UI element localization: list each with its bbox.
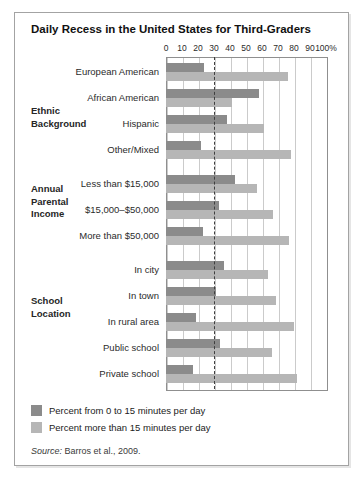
bar-0-to-15-min — [166, 115, 227, 124]
legend-label-more-15: Percent more than 15 minutes per day — [49, 422, 211, 433]
bars-column — [166, 57, 326, 391]
bar-more-than-15-min — [166, 210, 273, 219]
category-label: In city — [15, 261, 159, 279]
chart-area: 0102030405060708090100% European America… — [15, 43, 348, 395]
category-label: Private school — [15, 365, 159, 383]
x-axis-tick-label: 80 — [289, 43, 298, 53]
bar-0-to-15-min — [166, 339, 220, 348]
x-axis-tick-label: 100% — [315, 43, 337, 53]
category-label: European American — [15, 63, 159, 81]
bar-more-than-15-min — [166, 150, 291, 159]
category-label: Other/Mixed — [15, 141, 159, 159]
bar-more-than-15-min — [166, 184, 257, 193]
bar-0-to-15-min — [166, 175, 235, 184]
figure-box: Daily Recess in the United States for Th… — [14, 12, 349, 466]
bar-row — [166, 261, 326, 279]
bar-row — [166, 201, 326, 219]
figure-title: Daily Recess in the United States for Th… — [31, 23, 311, 35]
source-label: Source: — [31, 446, 62, 456]
group-label: Annual Parental Income — [31, 183, 89, 221]
reference-line-30pct — [214, 57, 215, 389]
legend: Percent from 0 to 15 minutes per day Per… — [31, 405, 211, 439]
group-label: School Location — [31, 295, 89, 320]
x-axis-tick-label: 40 — [225, 43, 234, 53]
x-axis-tick-label: 60 — [257, 43, 266, 53]
category-label: Public school — [15, 339, 159, 357]
bar-row — [166, 365, 326, 383]
x-axis-tick-label: 20 — [193, 43, 202, 53]
bar-row — [166, 89, 326, 107]
bar-more-than-15-min — [166, 270, 268, 279]
legend-swatch-dark — [31, 405, 42, 416]
bar-more-than-15-min — [166, 322, 294, 331]
bar-row — [166, 287, 326, 305]
x-axis-tick-label: 70 — [273, 43, 282, 53]
bar-row — [166, 63, 326, 81]
bar-0-to-15-min — [166, 365, 193, 374]
bar-more-than-15-min — [166, 348, 272, 357]
legend-label-0-15: Percent from 0 to 15 minutes per day — [49, 405, 205, 416]
bar-more-than-15-min — [166, 236, 289, 245]
bar-more-than-15-min — [166, 374, 297, 383]
x-axis-tick-label: 30 — [209, 43, 218, 53]
bar-0-to-15-min — [166, 141, 201, 150]
x-axis-tick-labels: 0102030405060708090100% — [166, 43, 326, 55]
figure-canvas: Daily Recess in the United States for Th… — [0, 0, 362, 478]
legend-item-0-15: Percent from 0 to 15 minutes per day — [31, 405, 211, 416]
x-axis-tick-label: 0 — [164, 43, 169, 53]
bar-row — [166, 313, 326, 331]
source-text: Barros et al., 2009. — [62, 446, 141, 456]
bar-row — [166, 227, 326, 245]
category-label: More than $50,000 — [15, 227, 159, 245]
bar-more-than-15-min — [166, 296, 276, 305]
x-axis-tick-label: 90 — [305, 43, 314, 53]
x-axis-tick-label: 10 — [177, 43, 186, 53]
source-note: Source: Barros et al., 2009. — [31, 446, 141, 456]
bar-row — [166, 141, 326, 159]
bar-0-to-15-min — [166, 287, 216, 296]
legend-swatch-light — [31, 422, 42, 433]
bar-row — [166, 339, 326, 357]
bar-row — [166, 175, 326, 193]
bar-row — [166, 115, 326, 133]
group-label: Ethnic Background — [31, 105, 89, 130]
legend-item-more-15: Percent more than 15 minutes per day — [31, 422, 211, 433]
x-axis-tick-label: 50 — [241, 43, 250, 53]
bar-0-to-15-min — [166, 227, 203, 236]
bar-0-to-15-min — [166, 89, 259, 98]
bar-0-to-15-min — [166, 201, 219, 210]
bar-more-than-15-min — [166, 98, 232, 107]
bar-0-to-15-min — [166, 313, 196, 322]
bar-more-than-15-min — [166, 72, 288, 81]
bar-0-to-15-min — [166, 63, 204, 72]
